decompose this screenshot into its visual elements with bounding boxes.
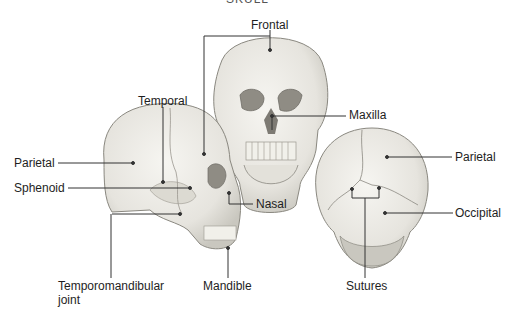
label-occipital: Occipital [455, 206, 501, 220]
label-tmj-line2: joint [58, 293, 80, 307]
label-parietal-right: Parietal [455, 150, 496, 164]
label-frontal: Frontal [251, 18, 288, 32]
label-temporal: Temporal [138, 94, 187, 108]
label-nasal: Nasal [256, 197, 287, 211]
label-tmj-line1: Temporomandibular [58, 279, 164, 293]
skull-illustration [0, 0, 514, 312]
label-sutures: Sutures [346, 279, 387, 293]
label-parietal-left: Parietal [14, 156, 55, 170]
label-tmj: Temporomandibular joint [58, 279, 164, 307]
label-sphenoid: Sphenoid [14, 181, 65, 195]
label-mandible: Mandible [203, 279, 252, 293]
label-maxilla: Maxilla [349, 108, 386, 122]
